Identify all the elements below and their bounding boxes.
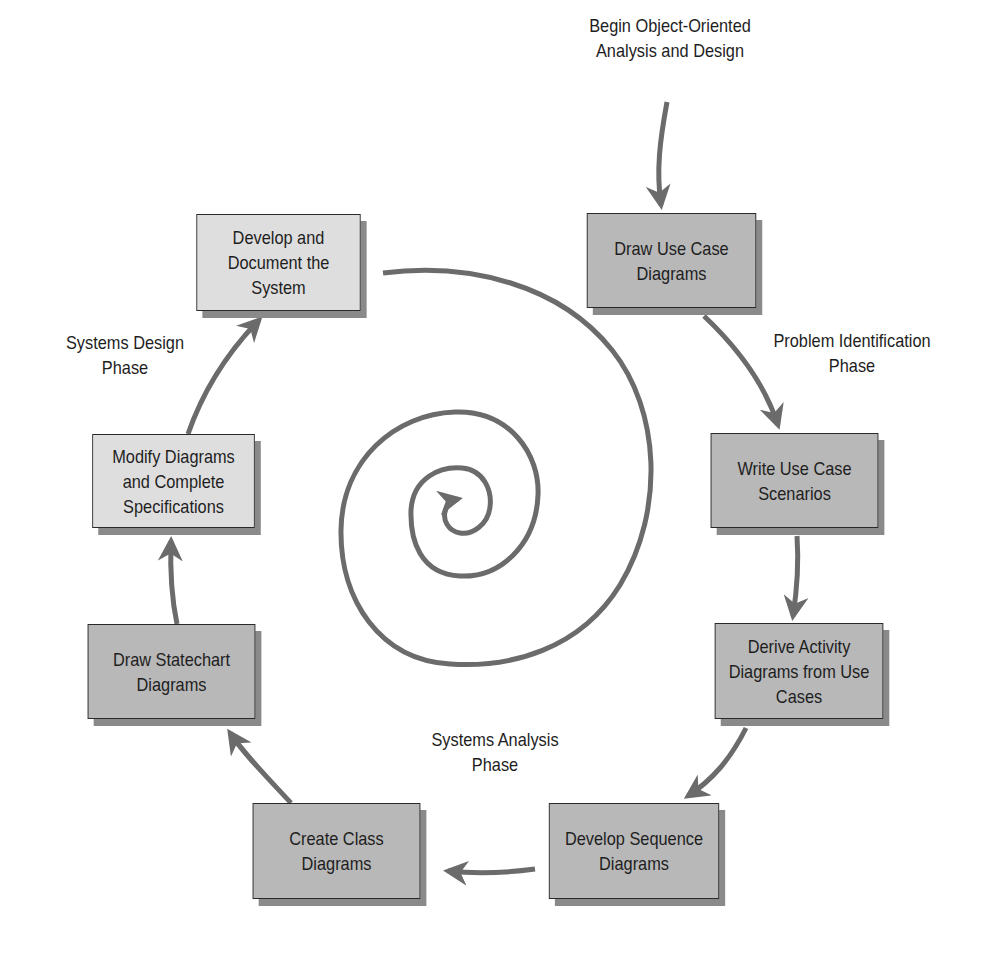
step-label: Modify Diagrams and Complete Specificati…: [93, 444, 254, 519]
arrow-scenarios-to-activity: [793, 536, 798, 616]
step-label: Draw Statechart Diagrams: [93, 647, 250, 697]
spiral-arrow: [341, 270, 651, 664]
step-derive-activity-diagrams: Derive Activity Diagrams from Use Cases: [715, 623, 884, 719]
step-develop-sequence-diagrams: Develop Sequence Diagrams: [549, 803, 719, 899]
step-draw-use-case-diagrams: Draw Use Case Diagrams: [587, 213, 756, 308]
arrow-activity-to-sequence: [688, 728, 746, 796]
phase-label-problem-identification: Problem Identification Phase: [749, 328, 955, 378]
step-draw-statechart-diagrams: Draw Statechart Diagrams: [88, 624, 256, 719]
step-label: Develop and Document the System: [209, 225, 348, 300]
arrow-sequence-to-class: [448, 869, 535, 873]
step-label: Develop Sequence Diagrams: [550, 826, 719, 876]
start-label: Begin Object-Oriented Analysis and Desig…: [558, 13, 782, 63]
step-modify-diagrams: Modify Diagrams and Complete Specificati…: [92, 434, 255, 528]
step-label: Derive Activity Diagrams from Use Cases: [716, 634, 883, 709]
start-arrow: [659, 102, 667, 205]
step-write-use-case-scenarios: Write Use Case Scenarios: [711, 433, 879, 528]
phase-label-systems-design: Systems Design Phase: [43, 330, 206, 380]
step-label: Write Use Case Scenarios: [725, 456, 864, 506]
arrow-statechart-to-modify: [171, 541, 177, 624]
step-label: Create Class Diagrams: [275, 826, 397, 876]
phase-label-systems-analysis: Systems Analysis Phase: [405, 727, 586, 777]
step-label: Draw Use Case Diagrams: [602, 236, 741, 286]
step-create-class-diagrams: Create Class Diagrams: [253, 803, 421, 899]
arrow-class-to-statechart: [230, 733, 291, 803]
step-develop-document-system: Develop and Document the System: [196, 214, 360, 311]
